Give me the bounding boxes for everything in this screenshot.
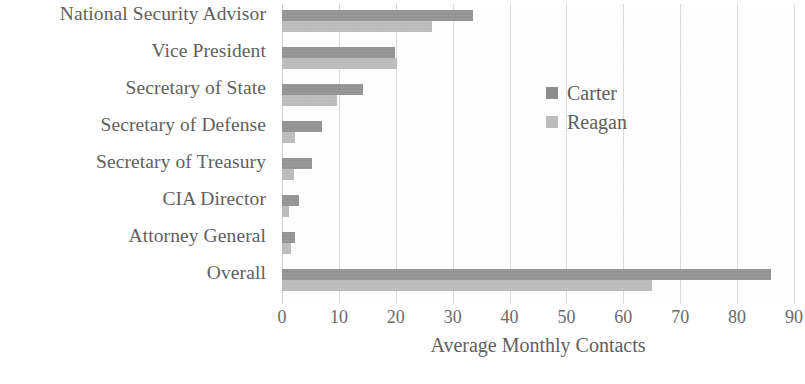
bar-reagan-secretary-of-treasury: [282, 169, 294, 180]
category-label-cia-director: CIA Director: [0, 189, 266, 209]
bar-reagan-national-security-advisor: [282, 21, 432, 32]
legend-label-carter: Carter: [567, 82, 617, 104]
gridline-20: [396, 4, 397, 304]
category-label-vice-president: Vice President: [0, 41, 266, 61]
legend-swatch-reagan-icon: [546, 116, 558, 128]
bar-reagan-overall: [282, 280, 652, 291]
legend-entry-carter: Carter: [546, 78, 716, 107]
x-axis-title: Average Monthly Contacts: [282, 334, 794, 357]
x-tick-label-10: 10: [330, 306, 348, 328]
category-label-secretary-of-state: Secretary of State: [0, 78, 266, 98]
bar-reagan-vice-president: [282, 58, 397, 69]
x-tick-label-30: 30: [444, 306, 462, 328]
bar-chart: National Security Advisor Vice President…: [0, 0, 805, 384]
bar-carter-cia-director: [282, 195, 299, 206]
bar-carter-vice-president: [282, 47, 395, 58]
bar-carter-overall: [282, 269, 771, 280]
gridline-90: [794, 4, 795, 304]
gridline-40: [510, 4, 511, 304]
gridline-50: [566, 4, 567, 304]
bar-reagan-secretary-of-defense: [282, 132, 295, 143]
bar-reagan-attorney-general: [282, 243, 291, 254]
legend-entry-reagan: Reagan: [546, 107, 716, 136]
x-tick-label-50: 50: [557, 306, 575, 328]
category-label-secretary-of-treasury: Secretary of Treasury: [0, 152, 266, 172]
bar-carter-secretary-of-state: [282, 84, 363, 95]
bar-carter-secretary-of-treasury: [282, 158, 312, 169]
x-tick-label-40: 40: [501, 306, 519, 328]
gridline-30: [453, 4, 454, 304]
bar-reagan-secretary-of-state: [282, 95, 337, 106]
gridline-70: [680, 4, 681, 304]
bar-reagan-cia-director: [282, 206, 289, 217]
x-tick-label-70: 70: [671, 306, 689, 328]
x-axis-tick-labels: 0102030405060708090: [282, 306, 794, 332]
x-tick-label-80: 80: [728, 306, 746, 328]
x-tick-label-20: 20: [387, 306, 405, 328]
legend-label-reagan: Reagan: [567, 111, 627, 133]
gridline-80: [737, 4, 738, 304]
bar-carter-national-security-advisor: [282, 10, 473, 21]
plot-area: [282, 4, 794, 304]
chart-legend: Carter Reagan: [546, 78, 716, 136]
category-axis: National Security Advisor Vice President…: [0, 0, 272, 304]
category-label-overall: Overall: [0, 263, 266, 283]
bar-carter-secretary-of-defense: [282, 121, 322, 132]
x-tick-label-90: 90: [785, 306, 803, 328]
x-tick-label-0: 0: [278, 306, 287, 328]
category-label-attorney-general: Attorney General: [0, 226, 266, 246]
category-label-national-security-advisor: National Security Advisor: [0, 4, 266, 24]
gridline-60: [623, 4, 624, 304]
x-tick-label-60: 60: [614, 306, 632, 328]
bar-carter-attorney-general: [282, 232, 295, 243]
legend-swatch-carter-icon: [546, 87, 558, 99]
category-label-secretary-of-defense: Secretary of Defense: [0, 115, 266, 135]
